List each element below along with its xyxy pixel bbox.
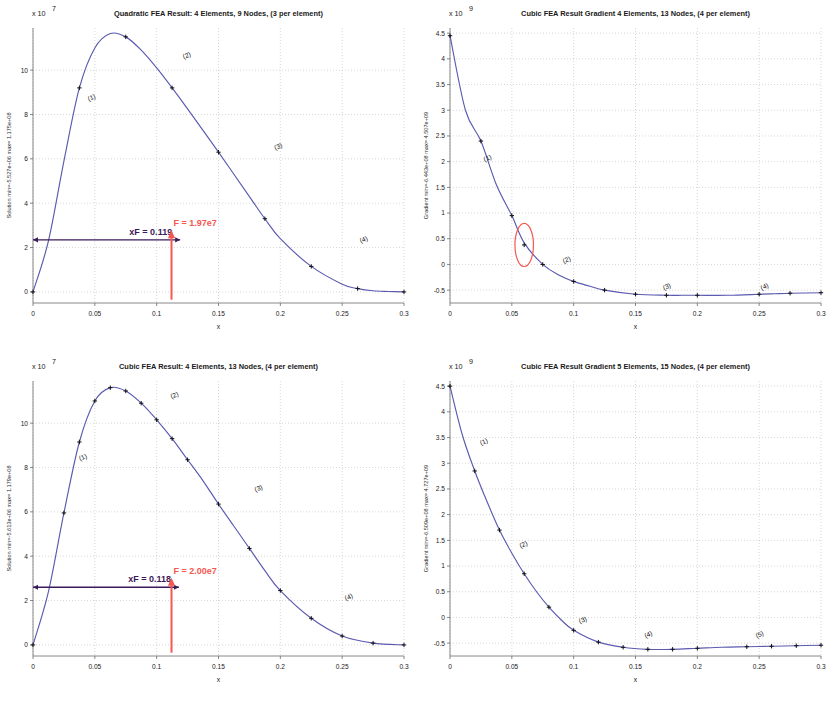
svg-text:(3): (3) <box>662 282 672 292</box>
svg-text:0.15: 0.15 <box>629 310 642 317</box>
element-labels: (1)(2)(3)(4)(5) <box>479 437 765 640</box>
panel-quadratic-solution: Quadratic FEA Result: 4 Elements, 9 Node… <box>0 0 418 353</box>
svg-text:0.05: 0.05 <box>505 310 518 317</box>
plot-quadratic-solution[interactable]: Quadratic FEA Result: 4 Elements, 9 Node… <box>0 0 418 353</box>
svg-text:1.5: 1.5 <box>436 184 445 191</box>
svg-text:0.1: 0.1 <box>569 663 578 670</box>
svg-text:10: 10 <box>21 67 29 74</box>
grid <box>450 28 821 303</box>
svg-text:0: 0 <box>24 641 28 648</box>
svg-text:0.05: 0.05 <box>88 310 101 317</box>
svg-text:(4): (4) <box>358 235 368 245</box>
svg-text:7: 7 <box>52 4 56 13</box>
y-axis-ticks: -0.500.511.522.533.544.5 <box>434 30 450 294</box>
xf-annotation: xF = 0.118 <box>33 574 179 590</box>
y-axis-ticks: -0.500.511.522.533.544.5 <box>434 383 450 647</box>
svg-text:0.25: 0.25 <box>336 663 349 670</box>
x-axis-label: x <box>634 323 638 330</box>
svg-text:0.25: 0.25 <box>753 310 766 317</box>
svg-text:(4): (4) <box>344 592 354 602</box>
svg-text:2: 2 <box>24 597 28 604</box>
svg-text:3: 3 <box>441 460 445 467</box>
y-axis-exponent-label: x 109 <box>449 357 473 371</box>
plot-cubic-gradient-5elem[interactable]: Cubic FEA Result Gradient 5 Elements, 15… <box>417 353 835 706</box>
y-axis-ticks: 0246810 <box>21 67 33 296</box>
x-axis-ticks: 00.050.10.150.20.250.3 <box>31 303 409 317</box>
svg-text:(1): (1) <box>479 437 489 447</box>
svg-text:0: 0 <box>448 310 452 317</box>
force-annotation: F = 2.00e7 <box>168 566 217 653</box>
y-axis-label: Gradient min=-6.443e+08 max= 4.507e+09 <box>423 112 429 219</box>
svg-text:(4): (4) <box>759 282 769 292</box>
svg-text:0.5: 0.5 <box>436 235 445 242</box>
element-labels: (1)(2)(3)(4) <box>86 50 369 245</box>
y-axis-exponent-label: x 107 <box>32 357 56 371</box>
svg-text:(3): (3) <box>253 483 263 493</box>
plot-title: Cubic FEA Result Gradient 5 Elements, 15… <box>521 362 750 371</box>
svg-text:0.1: 0.1 <box>152 663 161 670</box>
xf-label: xF = 0.119 <box>129 227 172 237</box>
svg-text:4: 4 <box>441 55 445 62</box>
svg-text:9: 9 <box>469 357 473 366</box>
svg-text:6: 6 <box>24 155 28 162</box>
svg-text:(1): (1) <box>78 452 88 462</box>
svg-text:(3): (3) <box>578 615 588 625</box>
svg-text:(3): (3) <box>273 141 283 151</box>
svg-text:0.3: 0.3 <box>399 663 408 670</box>
svg-text:0: 0 <box>448 663 452 670</box>
svg-text:3: 3 <box>441 107 445 114</box>
svg-text:(4): (4) <box>643 629 653 639</box>
x-axis-label: x <box>217 323 221 330</box>
grid <box>450 381 821 656</box>
svg-text:0.25: 0.25 <box>753 663 766 670</box>
svg-text:7: 7 <box>52 357 56 366</box>
svg-text:0.3: 0.3 <box>399 310 408 317</box>
svg-text:0.15: 0.15 <box>629 663 642 670</box>
grid <box>33 381 404 656</box>
svg-text:1: 1 <box>441 209 445 216</box>
svg-text:0.15: 0.15 <box>212 310 225 317</box>
plot-title: Quadratic FEA Result: 4 Elements, 9 Node… <box>114 9 323 18</box>
x-axis-ticks: 00.050.10.150.20.250.3 <box>448 656 826 670</box>
svg-text:0.2: 0.2 <box>693 663 702 670</box>
svg-text:0.15: 0.15 <box>212 663 225 670</box>
svg-text:(2): (2) <box>518 539 528 549</box>
svg-text:8: 8 <box>24 111 28 118</box>
svg-text:4.5: 4.5 <box>436 383 445 390</box>
plot-cubic-solution[interactable]: Cubic FEA Result: 4 Elements, 13 Nodes, … <box>0 353 418 706</box>
svg-text:(1): (1) <box>482 153 492 163</box>
svg-text:1: 1 <box>441 562 445 569</box>
svg-text:-0.5: -0.5 <box>434 640 446 647</box>
grid <box>33 28 404 303</box>
plot-title: Cubic FEA Result Gradient 4 Elements, 13… <box>521 9 750 18</box>
y-axis-label: Solution min=-5.527e+06 max= 1.175e+08 <box>6 112 12 218</box>
svg-text:(2): (2) <box>169 390 179 400</box>
svg-text:1.5: 1.5 <box>436 537 445 544</box>
y-axis-label: Gradient min=-6.509e+08 max= 4.727e+09 <box>423 465 429 572</box>
panel-cubic-gradient-5elem: Cubic FEA Result Gradient 5 Elements, 15… <box>417 353 835 706</box>
svg-text:3.5: 3.5 <box>436 81 445 88</box>
svg-text:0.2: 0.2 <box>276 663 285 670</box>
xf-annotation: xF = 0.119 <box>33 227 180 243</box>
axes <box>450 28 821 303</box>
svg-text:2: 2 <box>441 158 445 165</box>
svg-text:6: 6 <box>24 508 28 515</box>
svg-text:4: 4 <box>441 408 445 415</box>
svg-text:2.5: 2.5 <box>436 485 445 492</box>
svg-text:2: 2 <box>24 244 28 251</box>
force-label: F = 2.00e7 <box>174 566 217 576</box>
xf-label: xF = 0.118 <box>128 574 171 584</box>
svg-text:4: 4 <box>24 553 28 560</box>
svg-text:(5): (5) <box>754 629 764 639</box>
plot-cubic-gradient-4elem[interactable]: Cubic FEA Result Gradient 4 Elements, 13… <box>417 0 835 353</box>
svg-text:8: 8 <box>24 464 28 471</box>
svg-text:3.5: 3.5 <box>436 434 445 441</box>
x-axis-ticks: 00.050.10.150.20.250.3 <box>448 303 826 317</box>
svg-text:0.05: 0.05 <box>88 663 101 670</box>
svg-text:0: 0 <box>24 288 28 295</box>
y-axis-ticks: 0246810 <box>21 420 33 649</box>
x-axis-label: x <box>217 676 221 683</box>
svg-text:x 10: x 10 <box>449 9 463 18</box>
svg-text:0.25: 0.25 <box>336 310 349 317</box>
svg-text:0: 0 <box>31 663 35 670</box>
